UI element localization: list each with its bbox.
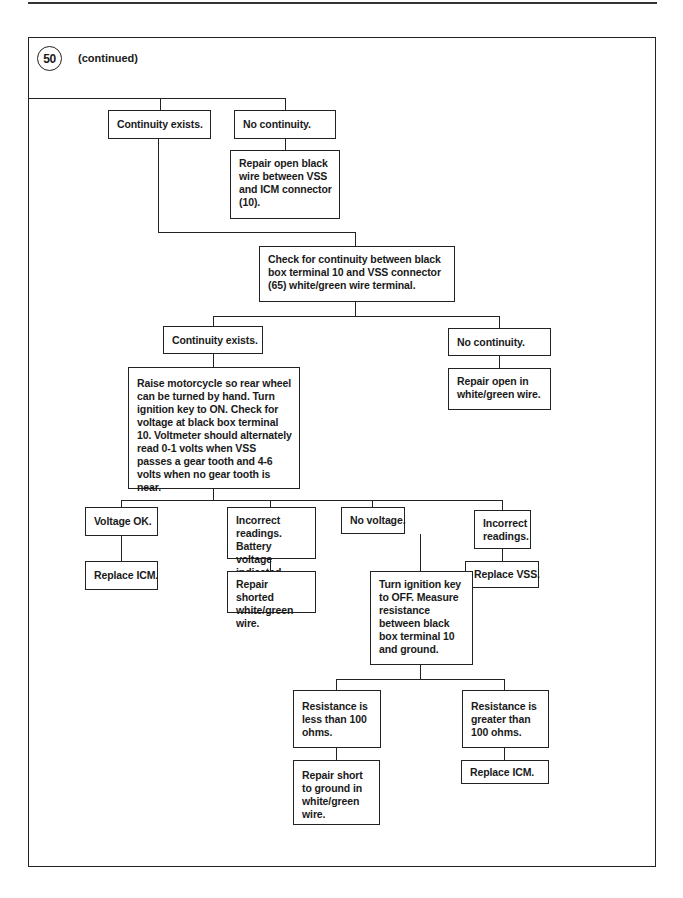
connector	[160, 98, 161, 110]
node-resistance-less: Resistance is less than 100 ohms.	[293, 690, 381, 748]
node-repair-open-black: Repair open black wire between VSS and I…	[230, 150, 340, 219]
node-incorrect-battery: Incorrect readings. Battery voltage indi…	[227, 507, 316, 559]
connector	[121, 500, 122, 507]
connector	[504, 679, 505, 690]
node-replace-icm-2: Replace ICM.	[461, 760, 549, 784]
connector	[121, 536, 122, 561]
node-no-continuity-2: No continuity.	[448, 328, 551, 356]
node-repair-short-ground: Repair short to ground in white/green wi…	[293, 760, 380, 825]
node-incorrect-readings: Incorrect readings.	[474, 510, 531, 549]
connector	[355, 302, 356, 316]
connector	[504, 748, 505, 760]
node-continuity-exists-2: Continuity exists.	[163, 326, 263, 354]
node-replace-icm-1: Replace ICM.	[85, 561, 158, 590]
node-raise-motorcycle: Raise motorcycle so rear wheel can be tu…	[128, 367, 300, 489]
connector	[158, 139, 159, 233]
connector	[213, 316, 214, 326]
connector	[499, 316, 500, 328]
connector	[355, 232, 356, 246]
node-replace-vss: Replace VSS.	[465, 561, 539, 588]
connector	[213, 354, 214, 367]
connector	[420, 665, 421, 679]
connector	[499, 356, 500, 368]
connector	[158, 232, 356, 233]
connector	[372, 500, 373, 507]
connector	[502, 500, 503, 510]
connector	[336, 679, 505, 680]
connector	[121, 500, 503, 501]
connector	[270, 500, 271, 507]
node-repair-shorted: Repair shorted white/green wire.	[227, 571, 316, 613]
node-continuity-exists-1: Continuity exists.	[108, 110, 211, 139]
node-resistance-greater: Resistance is greater than 100 ohms.	[462, 690, 549, 748]
connector	[285, 98, 286, 110]
connector	[28, 98, 286, 99]
node-no-continuity-1: No continuity.	[234, 110, 336, 139]
node-check-continuity: Check for continuity between black box t…	[259, 246, 455, 302]
node-voltage-ok: Voltage OK.	[85, 507, 158, 536]
connector	[502, 549, 503, 561]
page-header-rule	[28, 2, 657, 4]
continued-label: (continued)	[78, 52, 138, 64]
connector	[420, 534, 421, 571]
connector	[336, 748, 337, 760]
step-number-badge: 50	[37, 46, 62, 71]
node-repair-open-white-green: Repair open in white/green wire.	[448, 368, 551, 410]
node-turn-ignition-off: Turn ignition key to OFF. Measure resist…	[370, 571, 473, 665]
node-no-voltage: No voltage.	[341, 507, 405, 534]
connector	[336, 679, 337, 690]
connector	[270, 559, 271, 571]
connector	[213, 316, 500, 317]
